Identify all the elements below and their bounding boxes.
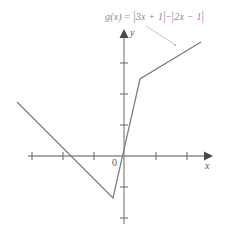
function-curve bbox=[17, 42, 201, 198]
origin-label: 0 bbox=[112, 157, 117, 168]
x-axis-label: x bbox=[205, 160, 209, 171]
y-axis-arrow bbox=[120, 29, 129, 38]
function-label: g(x) = |3x + 1|−|2x − 1| bbox=[105, 9, 204, 24]
function-label-arg: (x) bbox=[110, 11, 122, 22]
function-label-term1: 3x + 1 bbox=[136, 11, 163, 22]
function-label-equals: = bbox=[125, 11, 131, 22]
label-leader-dot bbox=[174, 44, 176, 46]
graph-figure: g(x) = |3x + 1|−|2x − 1| y x 0 bbox=[0, 0, 228, 230]
label-leader-line bbox=[146, 26, 174, 44]
function-label-term2: 2x − 1 bbox=[174, 11, 201, 22]
abs-close-2: | bbox=[202, 9, 205, 23]
coordinate-plot bbox=[0, 0, 228, 230]
y-axis-label: y bbox=[130, 27, 134, 38]
